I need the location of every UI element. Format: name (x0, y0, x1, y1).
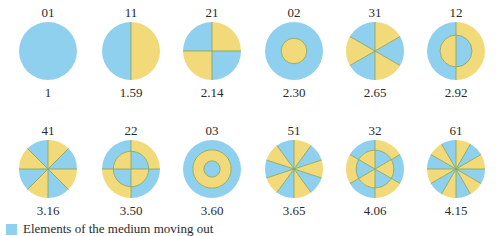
mode-label: 61 (416, 124, 496, 138)
mode-21: 212.14 (172, 6, 252, 106)
drum-membrane-pattern (102, 22, 160, 80)
mode-label: 22 (91, 124, 171, 138)
frequency-ratio: 3.50 (91, 204, 171, 218)
mode-61: 614.15 (416, 124, 496, 224)
frequency-ratio: 3.60 (172, 204, 252, 218)
frequency-ratio: 3.16 (8, 204, 88, 218)
drum-membrane-pattern (102, 140, 160, 198)
frequency-ratio: 1.59 (91, 86, 171, 100)
mode-label: 01 (8, 6, 88, 20)
frequency-ratio: 2.14 (172, 86, 252, 100)
drum-membrane-pattern (427, 22, 485, 80)
drum-membrane-pattern (19, 22, 77, 80)
legend-swatch-moving-out (6, 224, 17, 235)
mode-03: 033.60 (172, 124, 252, 224)
mode-12: 122.92 (416, 6, 496, 106)
frequency-ratio: 4.06 (335, 204, 415, 218)
mode-label: 21 (172, 6, 252, 20)
mode-02: 022.30 (254, 6, 334, 106)
mode-label: 41 (8, 124, 88, 138)
drum-membrane-pattern (183, 22, 241, 80)
drum-membrane-pattern (183, 140, 241, 198)
drum-membrane-pattern (346, 140, 404, 198)
mode-label: 12 (416, 6, 496, 20)
mode-label: 32 (335, 124, 415, 138)
mode-label: 03 (172, 124, 252, 138)
mode-41: 413.16 (8, 124, 88, 224)
frequency-ratio: 1 (8, 86, 88, 100)
frequency-ratio: 2.65 (335, 86, 415, 100)
mode-51: 513.65 (254, 124, 334, 224)
frequency-ratio: 2.92 (416, 86, 496, 100)
mode-32: 324.06 (335, 124, 415, 224)
drum-membrane-pattern (19, 140, 77, 198)
mode-label: 31 (335, 6, 415, 20)
mode-01: 011 (8, 6, 88, 106)
drum-membrane-pattern (427, 140, 485, 198)
drum-membrane-pattern (265, 140, 323, 198)
frequency-ratio: 3.65 (254, 204, 334, 218)
mode-label: 11 (91, 6, 171, 20)
frequency-ratio: 2.30 (254, 86, 334, 100)
mode-31: 312.65 (335, 6, 415, 106)
legend: Elements of the medium moving out (6, 222, 213, 236)
legend-label: Elements of the medium moving out (23, 221, 213, 236)
mode-11: 111.59 (91, 6, 171, 106)
drum-membrane-pattern (265, 22, 323, 80)
frequency-ratio: 4.15 (416, 204, 496, 218)
mode-label: 51 (254, 124, 334, 138)
mode-22: 223.50 (91, 124, 171, 224)
drum-membrane-pattern (346, 22, 404, 80)
mode-label: 02 (254, 6, 334, 20)
